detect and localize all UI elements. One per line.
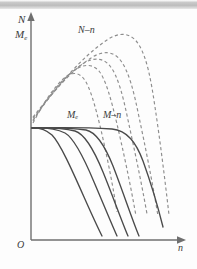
torque-curve-3: [32, 128, 128, 236]
torque-symbol-annotation: Me: [67, 110, 78, 121]
power-curve-5: [33, 34, 169, 215]
x-axis: [31, 236, 186, 243]
torque-curve-5: [32, 128, 163, 227]
chart-canvas: [0, 0, 197, 269]
power-family-annotation: N–n: [78, 25, 95, 35]
power-curve-3: [33, 59, 147, 214]
y-axis-torque-label: Me: [15, 29, 27, 41]
y-axis-torque-subscript: e: [24, 34, 27, 41]
y-axis-power-label: N: [18, 14, 25, 25]
y-axis: [27, 12, 34, 240]
power-curve-family: [33, 34, 169, 216]
torque-family-annotation: M–n: [103, 110, 121, 120]
origin-label: O: [17, 240, 24, 250]
torque-curve-1: [32, 128, 102, 236]
x-axis-label: n: [178, 243, 183, 253]
torque-symbol-subscript: e: [75, 113, 78, 120]
engine-characteristic-figure: N Me O n N–n Me M–n: [0, 0, 197, 269]
torque-curve-family: [32, 128, 163, 236]
torque-curve-4: [32, 128, 139, 236]
